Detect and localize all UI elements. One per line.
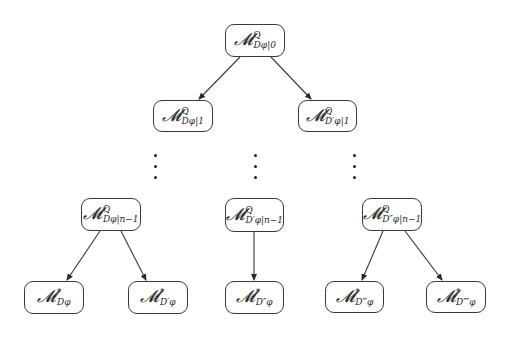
node-ln-left: 𝓜 Q Dφ|n−1	[81, 198, 141, 231]
edge-ln-left-to-leaf-2	[121, 231, 146, 280]
node-label: 𝓜 * D″φ	[236, 288, 272, 307]
node-subscript: Dφ|n−1	[103, 215, 139, 224]
node-superscript: *	[160, 288, 176, 297]
node-subscript: D′φ|1	[325, 117, 349, 126]
node-label: 𝓜 Q Dφ|n−1	[83, 205, 138, 224]
node-symbol: 𝓜	[437, 288, 456, 305]
node-subscript: D″φ|n−1	[382, 215, 421, 224]
node-symbol: 𝓜	[306, 107, 325, 124]
node-symbol: 𝓜	[226, 206, 245, 223]
node-subscript: D′φ	[160, 298, 176, 307]
node-leaf-2: 𝓜 * D′φ	[128, 281, 188, 314]
node-leaf-3: 𝓜 * D″φ	[225, 281, 284, 314]
node-superscript: Q	[382, 205, 421, 214]
node-symbol: 𝓜	[37, 288, 56, 305]
node-superscript: Q	[254, 31, 276, 40]
node-subscript: D‴φ	[355, 298, 373, 307]
node-symbol: 𝓜	[140, 288, 159, 305]
node-label: 𝓜 * D‴φ	[336, 288, 374, 307]
tree-diagram: 𝓜 Q Dφ|0 𝓜 Q Dφ|1 𝓜 Q D′φ|1 𝓜	[0, 0, 512, 342]
node-superscript: *	[57, 288, 71, 297]
node-subscript: Dφ	[57, 298, 71, 307]
node-label: 𝓜 Q D′φ|1	[306, 107, 350, 126]
node-subscript: Dφ|1	[182, 117, 204, 126]
node-l1-right: 𝓜 Q D′φ|1	[298, 100, 357, 132]
node-root: 𝓜 Q Dφ|0	[225, 24, 285, 57]
edge-ln-right-to-leaf-5	[405, 231, 442, 280]
node-symbol: 𝓜	[234, 31, 253, 48]
node-superscript: *	[456, 288, 476, 297]
node-l1-left: 𝓜 Q Dφ|1	[153, 100, 213, 132]
node-leaf-4: 𝓜 * D‴φ	[325, 281, 384, 313]
node-symbol: 𝓜	[236, 288, 255, 305]
node-subscript: D″φ	[256, 298, 273, 307]
node-subscript: Dφ|0	[254, 41, 276, 50]
node-label: 𝓜 * Dφ	[37, 288, 70, 307]
node-superscript: Q	[103, 205, 139, 214]
node-superscript: Q	[245, 206, 283, 215]
node-label: 𝓜 Q D′φ|n−1	[226, 206, 283, 225]
node-leaf-1: 𝓜 * Dφ	[24, 281, 84, 314]
node-symbol: 𝓜	[336, 288, 355, 305]
node-label: 𝓜 * D⁗φ	[437, 288, 476, 307]
node-label: 𝓜 * D′φ	[140, 288, 175, 307]
node-label: 𝓜 Q Dφ|1	[162, 107, 204, 126]
edge-ln-left-to-leaf-1	[67, 231, 100, 280]
node-superscript: Q	[325, 107, 349, 116]
node-label: 𝓜 Q D″φ|n−1	[363, 205, 421, 224]
node-label: 𝓜 Q Dφ|0	[234, 31, 276, 50]
node-symbol: 𝓜	[162, 107, 181, 124]
node-superscript: *	[256, 288, 273, 297]
edge-root-to-l1-left	[199, 57, 240, 99]
edge-ln-right-to-leaf-4	[362, 231, 383, 280]
node-symbol: 𝓜	[83, 205, 102, 222]
node-superscript: Q	[182, 107, 204, 116]
node-superscript: *	[355, 288, 373, 297]
node-subscript: D⁗φ	[456, 298, 476, 307]
node-leaf-5: 𝓜 * D⁗φ	[426, 281, 486, 313]
node-symbol: 𝓜	[363, 205, 382, 222]
node-subscript: D′φ|n−1	[245, 216, 283, 225]
node-ln-right: 𝓜 Q D″φ|n−1	[362, 198, 422, 231]
edge-root-to-l1-right	[271, 57, 311, 99]
node-ln-center: 𝓜 Q D′φ|n−1	[225, 198, 284, 232]
